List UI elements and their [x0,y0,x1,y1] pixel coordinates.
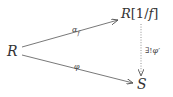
alpha-subscript: f [77,29,79,36]
node-r-label: R [7,43,18,59]
node-r-localized-close: ] [153,6,158,21]
node-r-localized: R[1/f] [121,7,158,21]
edge-label-phi: φ [74,63,80,71]
commutative-diagram: R R[1/f] S αf φ ∃!φ′ [0,0,173,97]
arrow-alpha-f [22,20,118,47]
edge-label-alpha-f: αf [72,26,80,37]
node-s: S [137,77,147,91]
node-r-localized-bracket: [1/ [131,6,149,21]
prime-mark: ′ [158,46,160,55]
edge-label-exists-unique-phi-prime: ∃!φ′ [145,47,160,55]
node-r: R [7,44,18,58]
phi-symbol: φ [74,62,80,71]
node-r-localized-base: R [121,6,131,21]
node-s-label: S [137,76,147,92]
exists-unique-symbol: ∃! [145,46,153,55]
